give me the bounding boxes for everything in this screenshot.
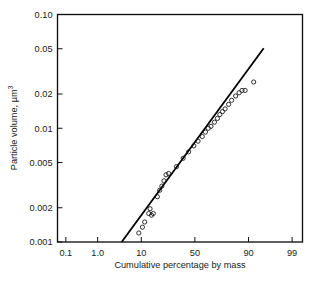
x-tick-label-3: 50 <box>190 248 200 258</box>
x-tick-label-1: 1.0 <box>91 248 104 258</box>
y-axis-title: Particle volume, µm3 <box>7 85 19 170</box>
particle-volume-scatter-chart: 0.0010.0020.0050.010.020.050.10 0.11.010… <box>0 0 317 284</box>
x-tick-label-0: 0.1 <box>59 248 72 258</box>
x-tick-label-2: 10 <box>136 248 146 258</box>
y-tick-label-4: 0.02 <box>35 89 53 99</box>
x-tick-label-4: 90 <box>243 248 253 258</box>
x-tick-label-5: 99 <box>287 248 297 258</box>
y-tick-label-2: 0.005 <box>30 158 53 168</box>
y-tick-label-5: 0.05 <box>35 44 53 54</box>
y-tick-label-0: 0.001 <box>30 237 53 247</box>
y-tick-label-3: 0.01 <box>35 124 53 134</box>
y-tick-label-1: 0.002 <box>30 203 53 213</box>
y-tick-label-6: 0.10 <box>35 10 53 20</box>
x-axis-title: Cumulative percentage by mass <box>114 260 246 270</box>
y-axis-tick-group <box>58 15 63 243</box>
figure-particle-volume-distribution: 0.0010.0020.0050.010.020.050.10 0.11.010… <box>0 0 317 284</box>
